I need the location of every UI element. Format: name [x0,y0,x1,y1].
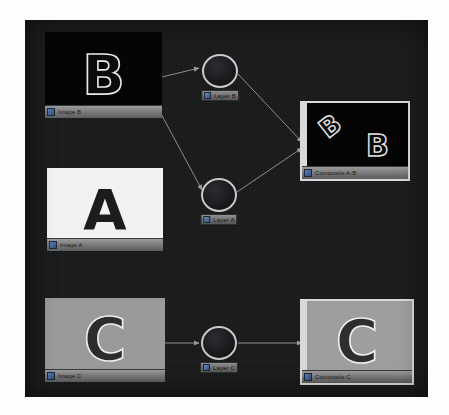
operator-node-icon [204,92,211,99]
screenshot-frame: B Image B A Image A C [0,0,449,415]
node-image-a-label: Image A [60,242,161,248]
node-thumbnail-icon [47,372,55,380]
node-layer-a[interactable]: Layer A [201,178,237,226]
node-image-c-label: Image C [58,373,163,379]
node-image-b[interactable]: B Image B [45,32,162,118]
thumbnail-letter-a: A [83,182,126,238]
node-composite-c[interactable]: C Composite C [302,301,412,383]
node-thumbnail-icon [304,373,312,381]
node-composite-c-titlebar[interactable]: Composite C [302,370,412,383]
node-image-b-titlebar[interactable]: Image B [45,105,162,118]
wire-layer-a-to-composite-ab [237,148,302,192]
node-layer-a-body[interactable] [201,178,237,212]
wire-layer-b-to-composite-ab [238,74,302,142]
node-composite-c-thumbnail: C Composite C [302,301,412,383]
node-composite-ab-titlebar[interactable]: Composite A-B [302,166,408,179]
node-image-c-thumbnail: C Image C [45,298,165,382]
node-layer-b-body[interactable] [202,54,238,88]
node-image-c-titlebar[interactable]: Image C [45,369,165,382]
node-image-b-thumbnail: B Image B [45,32,162,118]
thumbnail-letter-b-rotated: B [314,110,346,143]
node-image-a[interactable]: A Image A [47,168,163,251]
node-layer-a-titlebar[interactable]: Layer A [200,214,237,225]
wire-image-b-to-layer-b [162,68,199,77]
node-layer-b-label: Layer B [214,92,236,98]
node-composite-ab-label: Composite A-B [315,170,406,176]
node-image-a-thumbnail: A Image A [47,168,163,251]
node-thumbnail-icon [49,241,57,249]
node-composite-c-label: Composite C [315,374,410,380]
node-composite-ab[interactable]: B B Composite A-B [302,103,408,179]
node-layer-c-label: Layer C [213,364,235,370]
node-layer-c-titlebar[interactable]: Layer C [200,362,238,373]
node-graph-canvas[interactable]: B Image B A Image A C [25,20,428,397]
thumbnail-letter-b-upright: B [366,131,389,161]
node-composite-ab-thumbnail: B B Composite A-B [302,103,408,179]
node-layer-c[interactable]: Layer C [201,326,237,374]
thumbnail-letter-c: C [336,313,379,371]
node-image-b-label: Image B [58,109,160,115]
node-layer-b-titlebar[interactable]: Layer B [201,90,239,101]
node-layer-a-label: Layer A [213,216,234,222]
node-layer-c-body[interactable] [201,326,237,360]
node-layer-b[interactable]: Layer B [202,54,238,102]
node-thumbnail-icon [304,169,312,177]
operator-node-icon [203,364,210,371]
node-thumbnail-icon [47,108,55,116]
node-image-a-titlebar[interactable]: Image A [47,238,163,251]
thumbnail-letter-b: B [82,47,125,103]
operator-node-icon [203,216,210,223]
node-image-c[interactable]: C Image C [45,298,165,382]
thumbnail-letter-c: C [84,311,127,369]
